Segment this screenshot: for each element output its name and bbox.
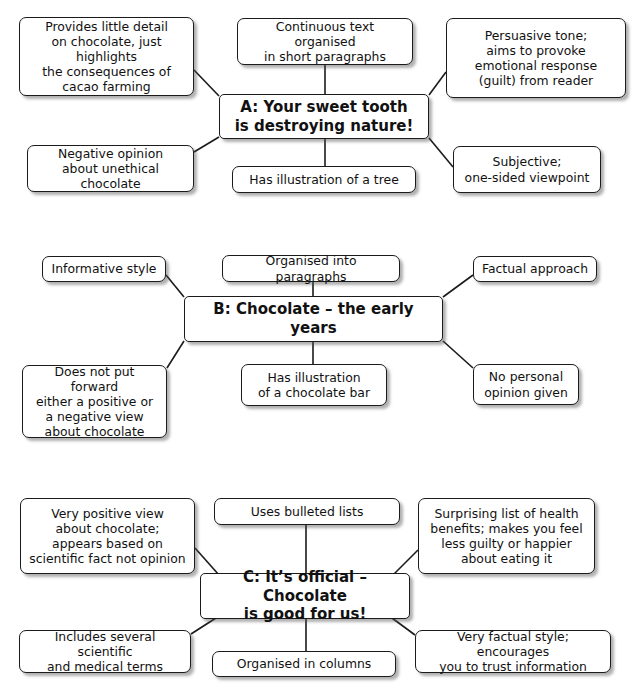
branch-node-label: Very factual style; encourages you to tr… [423,629,603,674]
branch-node-continuous-text: Continuous text organised in short parag… [237,18,413,65]
branch-node-label: Has illustration of a chocolate bar [258,370,370,400]
branch-node-label: Factual approach [482,261,588,276]
branch-node-label: Organised in columns [237,656,372,671]
branch-node-label: Continuous text organised in short parag… [245,19,405,64]
branch-node-label: Organised into paragraphs [230,253,392,283]
connector-line-b-5 [443,341,473,368]
branch-node-label: No personal opinion given [484,369,568,399]
branch-node-subjective-one-sided: Subjective; one-sided viewpoint [453,146,601,193]
branch-node-organised-into-paragraphs: Organised into paragraphs [222,255,400,282]
center-node-a: A: Your sweet tooth is destroying nature… [219,94,429,139]
branch-node-no-personal-opinion: No personal opinion given [473,364,579,405]
branch-node-has-illustration-tree: Has illustration of a tree [232,166,416,193]
center-node-label: C: It’s official – Chocolate is good for… [208,568,402,624]
branch-node-uses-bulleted-lists: Uses bulleted lists [214,498,400,525]
center-node-label: B: Chocolate – the early years [192,300,435,338]
branch-node-surprising-list-health-benefits: Surprising list of health benefits; make… [418,498,595,574]
branch-node-factual-approach: Factual approach [473,256,597,282]
connector-line-a-5 [429,138,453,167]
branch-node-label: Persuasive tone; aims to provoke emotion… [475,28,597,89]
mind-map-canvas: Provides little detail on chocolate, jus… [0,0,635,694]
branch-node-persuasive-tone: Persuasive tone; aims to provoke emotion… [446,18,626,98]
branch-node-label: Does not put forward either a positive o… [30,364,159,440]
connector-line-b-2 [443,275,473,297]
branch-node-has-illustration-chocolate-bar: Has illustration of a chocolate bar [241,364,387,406]
branch-node-label: Subjective; one-sided viewpoint [465,154,590,184]
branch-node-organised-in-columns: Organised in columns [212,651,396,677]
branch-node-provides-little-detail: Provides little detail on chocolate, jus… [19,17,194,96]
branch-node-includes-scientific-terms: Includes several scientific and medical … [19,630,191,673]
center-node-label: A: Your sweet tooth is destroying nature… [235,98,414,136]
center-node-c: C: It’s official – Chocolate is good for… [200,573,410,619]
branch-node-informative-style: Informative style [42,256,166,282]
connector-line-b-3 [167,341,184,368]
branch-node-label: Surprising list of health benefits; make… [430,506,582,567]
branch-node-label: Very positive view about chocolate; appe… [29,506,185,567]
branch-node-negative-opinion: Negative opinion about unethical chocola… [27,145,194,192]
branch-node-does-not-put-forward: Does not put forward either a positive o… [22,365,167,438]
branch-node-label: Includes several scientific and medical … [27,629,183,674]
branch-node-label: Uses bulleted lists [251,504,364,519]
branch-node-label: Informative style [52,261,157,276]
branch-node-label: Negative opinion about unethical chocola… [35,146,186,191]
connector-line-b-0 [166,275,184,297]
connector-line-a-3 [194,137,219,152]
center-node-b: B: Chocolate – the early years [184,296,443,342]
connector-line-a-2 [429,72,446,95]
branch-node-very-factual-style: Very factual style; encourages you to tr… [415,630,611,673]
branch-node-label: Has illustration of a tree [249,172,399,187]
connector-line-a-0 [194,70,219,96]
branch-node-label: Provides little detail on chocolate, jus… [27,19,186,95]
branch-node-very-positive-view: Very positive view about chocolate; appe… [20,498,195,574]
